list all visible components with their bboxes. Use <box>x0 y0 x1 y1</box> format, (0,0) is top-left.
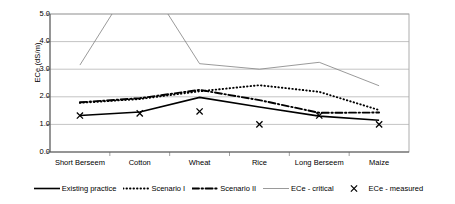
chart-container: ECe (dS/m) 0.01.02.03.04.05.0 Short Bers… <box>0 0 455 204</box>
legend-item[interactable]: ECe - measured <box>341 184 424 193</box>
thin-line-swatch <box>263 184 289 193</box>
legend-item[interactable]: ECe - critical <box>263 184 334 193</box>
dashdot-line-swatch <box>192 184 218 193</box>
legend-label: Scenario I <box>151 184 185 193</box>
plot-area <box>0 0 455 204</box>
legend-label: ECe - critical <box>291 184 334 193</box>
dotted-line-swatch <box>123 184 149 193</box>
legend-item[interactable]: Scenario II <box>192 184 256 193</box>
legend-label: ECe - measured <box>369 184 424 193</box>
legend-item[interactable]: Existing practice <box>34 184 117 193</box>
x-marker-swatch <box>341 184 367 193</box>
legend-item[interactable]: Scenario I <box>123 184 185 193</box>
legend-label: Scenario II <box>220 184 256 193</box>
plot-background <box>50 14 409 152</box>
solid-line-swatch <box>34 184 60 193</box>
legend-label: Existing practice <box>62 184 117 193</box>
chart-legend: Existing practiceScenario IScenario IIEC… <box>46 178 411 198</box>
